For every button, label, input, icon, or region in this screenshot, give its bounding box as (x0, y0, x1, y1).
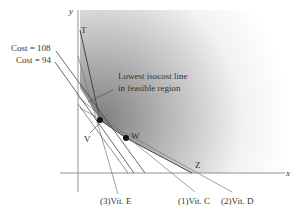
point-z-label: Z (195, 160, 201, 170)
annotation-line2: in feasible region (118, 83, 181, 93)
v-leader (90, 124, 99, 133)
feasible-region (80, 10, 299, 173)
isocost-diagram: y x T V W Z Cost = 108 Cost = 94 Lowest … (0, 0, 299, 221)
point-w-label: W (131, 131, 140, 141)
y-axis-label: y (68, 6, 73, 16)
x-axis-label: x (285, 168, 290, 178)
constraint-label-vit-c: (1)Vit. C (178, 196, 210, 206)
constraint-label-vit-d: (2)Vit. D (221, 196, 254, 206)
constraint-label-vit-e: (3)Vit. E (100, 196, 132, 206)
annotation-line1: Lowest isocost line (118, 71, 188, 81)
point-t-label: T (81, 25, 87, 35)
point-v (97, 117, 103, 123)
point-v-label: V (84, 134, 91, 144)
cost-108-label: Cost = 108 (11, 43, 51, 53)
point-w (123, 135, 129, 141)
cost-94-label: Cost = 94 (16, 55, 52, 65)
